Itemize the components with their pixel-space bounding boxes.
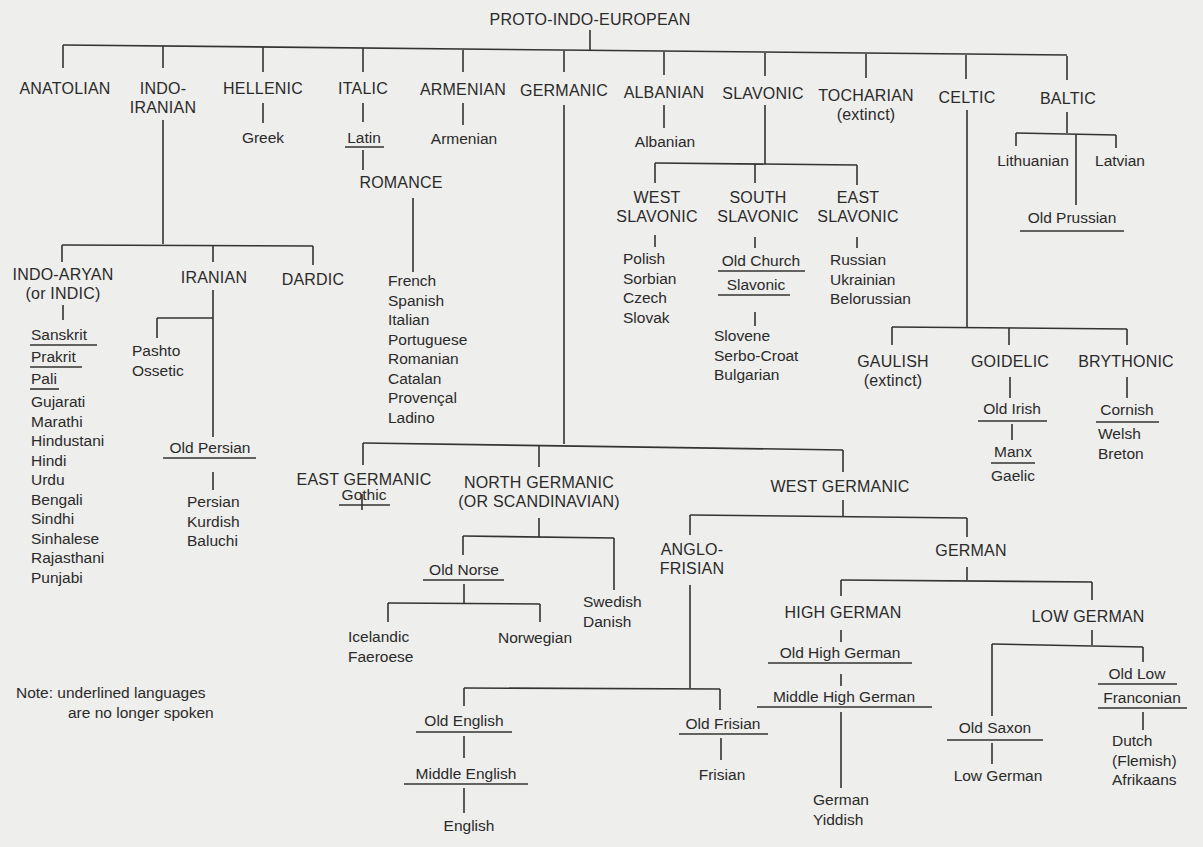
group-german: GERMAN	[935, 541, 1006, 560]
lang-old-low-extinct: Old Low	[1109, 664, 1166, 683]
group-low-german: LOW GERMAN	[1031, 607, 1144, 626]
east-slavonic-list: Russian Ukrainian Belorussian	[830, 250, 911, 309]
lang-franconian-extinct: Franconian	[1103, 688, 1181, 707]
lang-pali-extinct: Pali	[31, 369, 57, 388]
lang-middle-english-extinct: Middle English	[416, 764, 517, 783]
branch-indo-iranian: INDO- IRANIAN	[130, 79, 196, 117]
branch-germanic: GERMANIC	[520, 81, 608, 100]
lang-lithuanian: Lithuanian	[997, 151, 1069, 170]
group-north-germanic: NORTH GERMANIC (OR SCANDINAVIAN)	[458, 473, 619, 511]
iranian-east-list: Pashto Ossetic	[132, 341, 184, 380]
lang-norwegian: Norwegian	[498, 628, 572, 647]
root-proto-indo-european: PROTO-INDO-EUROPEAN	[490, 10, 691, 29]
brythonic-list: Welsh Breton	[1098, 424, 1144, 463]
lang-old-frisian-extinct: Old Frisian	[686, 714, 761, 733]
branch-tocharian: TOCHARIAN (extinct)	[818, 86, 914, 124]
group-high-german: HIGH GERMAN	[785, 603, 902, 622]
west-slavonic-list: Polish Sorbian Czech Slovak	[623, 249, 676, 327]
group-south-slavonic: SOUTH SLAVONIC	[717, 188, 798, 226]
lang-greek: Greek	[242, 128, 284, 147]
lang-old-english-extinct: Old English	[424, 711, 503, 730]
group-dardic: DARDIC	[282, 270, 345, 289]
group-east-slavonic: EAST SLAVONIC	[817, 188, 898, 226]
indo-aryan-language-list: Gujarati Marathi Hindustani Hindi Urdu B…	[31, 392, 104, 587]
group-romance: ROMANCE	[359, 173, 442, 192]
branch-italic: ITALIC	[338, 79, 388, 98]
group-brythonic: BRYTHONIC	[1078, 352, 1174, 371]
group-west-slavonic: WEST SLAVONIC	[616, 188, 697, 226]
high-german-list: German Yiddish	[813, 790, 869, 829]
legend-note: Note: underlined languages are no longer…	[16, 683, 214, 723]
icelandic-list: Icelandic Faeroese	[348, 627, 413, 666]
lang-old-church-extinct: Old Church	[722, 251, 800, 270]
south-slavonic-list: Slovene Serbo-Croat Bulgarian	[714, 326, 798, 385]
branch-baltic: BALTIC	[1040, 89, 1096, 108]
group-goidelic: GOIDELIC	[971, 352, 1049, 371]
swedish-danish-list: Swedish Danish	[583, 592, 642, 631]
lang-latin-extinct: Latin	[347, 128, 381, 147]
lang-frisian: Frisian	[699, 765, 746, 784]
lang-old-saxon-extinct: Old Saxon	[959, 718, 1031, 737]
lang-prakrit-extinct: Prakrit	[31, 347, 76, 366]
lang-middle-high-german-extinct: Middle High German	[773, 687, 915, 706]
branch-celtic: CELTIC	[939, 88, 996, 107]
lang-gaelic: Gaelic	[991, 466, 1035, 485]
lang-old-high-german-extinct: Old High German	[780, 643, 901, 662]
franconian-list: Dutch (Flemish) Afrikaans	[1112, 731, 1177, 790]
romance-language-list: French Spanish Italian Portuguese Romani…	[388, 271, 467, 427]
iranian-west-list: Persian Kurdish Baluchi	[187, 492, 240, 551]
lang-armenian: Armenian	[431, 129, 497, 148]
lang-sanskrit-extinct: Sanskrit	[31, 325, 87, 344]
lang-latvian: Latvian	[1095, 151, 1145, 170]
lang-cornish-extinct: Cornish	[1100, 400, 1153, 419]
lang-manx-extinct: Manx	[994, 442, 1032, 461]
branch-armenian: ARMENIAN	[420, 80, 506, 99]
lang-low-german: Low German	[954, 766, 1043, 785]
group-west-germanic: WEST GERMANIC	[770, 477, 909, 496]
branch-slavonic: SLAVONIC	[722, 84, 803, 103]
group-iranian: IRANIAN	[181, 268, 247, 287]
group-anglo-frisian: ANGLO- FRISIAN	[660, 540, 725, 578]
branch-anatolian: ANATOLIAN	[19, 79, 110, 98]
group-gaulish: GAULISH (extinct)	[857, 352, 929, 390]
branch-albanian: ALBANIAN	[624, 83, 705, 102]
lang-old-irish-extinct: Old Irish	[983, 399, 1041, 418]
lang-old-prussian-extinct: Old Prussian	[1028, 208, 1117, 227]
branch-hellenic: HELLENIC	[223, 79, 303, 98]
lang-old-norse-extinct: Old Norse	[429, 560, 499, 579]
lang-gothic-label: Gothic	[342, 485, 387, 504]
lang-albanian: Albanian	[635, 132, 695, 151]
lang-english: English	[444, 816, 495, 835]
lang-slavonic-extinct: Slavonic	[727, 275, 786, 294]
group-indo-aryan: INDO-ARYAN (or INDIC)	[13, 265, 114, 303]
lang-old-persian-extinct: Old Persian	[170, 438, 251, 457]
